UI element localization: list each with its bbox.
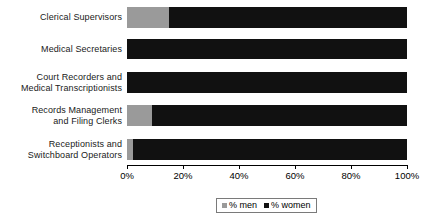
x-tick-100%	[407, 165, 408, 169]
category-label-court-recorders: Court Recorders and Medical Transcriptio…	[0, 72, 122, 94]
category-label-receptionists: Receptionists and Switchboard Operators	[0, 139, 122, 161]
plot-area	[127, 0, 407, 165]
x-tick-80%	[351, 165, 352, 169]
x-tick-label-0%: 0%	[97, 170, 157, 182]
category-label-line: Switchboard Operators	[0, 150, 122, 161]
bar-segment-men	[127, 7, 169, 28]
category-label-records-management: Records Management and Filing Clerks	[0, 105, 122, 127]
x-tick-label-80%: 80%	[321, 170, 381, 182]
men-swatch-icon	[222, 203, 227, 208]
x-tick-label-60%: 60%	[265, 170, 325, 182]
x-tick-60%	[295, 165, 296, 169]
x-tick-0%	[127, 165, 128, 169]
women-swatch-icon	[264, 203, 269, 208]
category-label-clerical-supervisors: Clerical Supervisors	[0, 12, 122, 23]
bar-segment-men	[127, 105, 152, 126]
x-tick-20%	[183, 165, 184, 169]
x-axis-line	[127, 165, 408, 166]
category-label-line: Court Recorders and	[0, 72, 122, 83]
legend-label-women: % women	[271, 200, 311, 211]
stacked-bar-chart: Clerical Supervisors Medical Secretaries…	[0, 0, 427, 219]
category-label-line: Medical Secretaries	[0, 44, 122, 55]
legend: % men % women	[216, 198, 317, 213]
category-label-line: Receptionists and	[0, 139, 122, 150]
category-label-medical-secretaries: Medical Secretaries	[0, 44, 122, 55]
legend-item-women: % women	[264, 200, 311, 211]
category-label-line: Medical Transcriptionists	[0, 83, 122, 94]
category-label-line: Records Management	[0, 105, 122, 116]
bar-2	[127, 39, 407, 59]
bar-segment-women	[133, 139, 407, 160]
legend-item-men: % men	[222, 200, 257, 211]
x-tick-label-20%: 20%	[153, 170, 213, 182]
bar-segment-women	[152, 105, 407, 126]
bar-segment-women	[169, 7, 407, 28]
legend-label-men: % men	[229, 200, 257, 211]
x-tick-label-100%: 100%	[377, 170, 427, 182]
bar-5	[127, 139, 407, 160]
bar-segment-women	[127, 39, 407, 59]
bar-3	[127, 72, 407, 93]
x-tick-label-40%: 40%	[209, 170, 269, 182]
bar-segment-women	[127, 72, 407, 93]
bar-1	[127, 7, 407, 28]
bar-4	[127, 105, 407, 126]
category-label-line: and Filing Clerks	[0, 116, 122, 127]
category-label-line: Clerical Supervisors	[0, 12, 122, 23]
x-tick-40%	[239, 165, 240, 169]
